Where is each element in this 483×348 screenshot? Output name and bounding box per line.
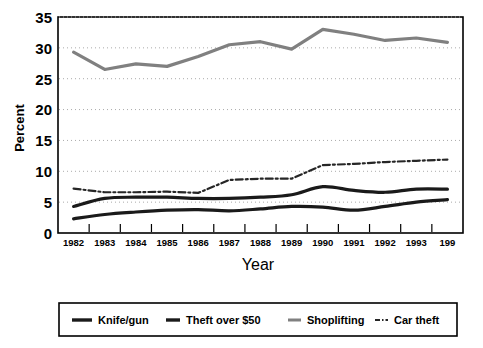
legend-label: Car theft	[394, 314, 440, 326]
x-tick-label: 1990	[312, 237, 333, 248]
legend-label: Shoplifting	[307, 314, 364, 326]
x-tick-label: 1993	[406, 237, 427, 248]
line-chart-figure: Percent 35 30 25 20 15 10 5 0 1982198319…	[0, 0, 483, 348]
x-tick-label: 1983	[94, 237, 115, 248]
x-tick-label: 1986	[188, 237, 209, 248]
x-tick-label: 1988	[250, 237, 271, 248]
x-tick-label: 199	[439, 237, 455, 248]
legend: Knife/gunTheft over $50ShopliftingCar th…	[59, 303, 457, 336]
y-tick-label: 35	[35, 9, 52, 26]
x-tick-label: 1985	[156, 237, 178, 248]
x-axis-title: Year	[242, 256, 275, 273]
x-tick-label: 1984	[125, 237, 147, 248]
y-tick-label: 25	[35, 71, 52, 88]
x-tick-label: 1982	[63, 237, 84, 248]
x-tick-label: 1987	[219, 237, 240, 248]
y-tick-label: 0	[44, 225, 52, 242]
x-tick-label: 1992	[375, 237, 396, 248]
y-tick-label: 20	[35, 101, 52, 118]
y-tick-label: 10	[35, 163, 52, 180]
y-tick-label: 5	[44, 194, 52, 211]
x-tick-label: 1991	[343, 237, 365, 248]
y-tick-label: 15	[35, 132, 52, 149]
plot-area-frame	[58, 17, 463, 233]
legend-label: Knife/gun	[98, 314, 149, 326]
legend-label: Theft over $50	[186, 314, 261, 326]
y-axis-title: Percent	[12, 103, 27, 151]
y-tick-label: 30	[35, 40, 52, 57]
x-tick-label: 1989	[281, 237, 302, 248]
